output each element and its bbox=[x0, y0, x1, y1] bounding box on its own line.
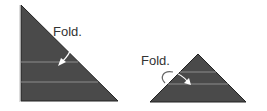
fold-diagram bbox=[0, 0, 267, 111]
fold-label-left: Fold. bbox=[53, 24, 82, 39]
left-triangle-figure bbox=[20, 5, 118, 102]
fold-label-right: Fold. bbox=[141, 53, 170, 68]
